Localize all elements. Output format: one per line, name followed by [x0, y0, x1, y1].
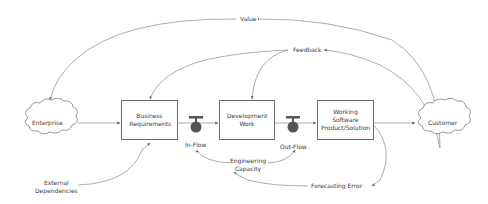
customer-label: Customer — [428, 119, 457, 127]
capacity-to-outflow-arrow — [268, 150, 295, 163]
inflow-valve-icon — [189, 116, 203, 133]
value-label: Value — [238, 15, 258, 23]
outflow-valve-icon — [286, 116, 300, 133]
feedback-arrow-to-business-requirements — [150, 50, 288, 99]
feedback-label: Feedback — [291, 46, 324, 54]
customer-cloud-icon — [418, 98, 470, 134]
system-dynamics-diagram: Business Requirements Development Work W… — [0, 0, 488, 204]
software-to-forecasting-error-arrow — [372, 125, 386, 186]
working-software-box: Working Software Product/Solution — [317, 100, 374, 140]
development-work-box: Development Work — [219, 100, 275, 140]
feedback-arrow-to-development-work — [252, 50, 288, 99]
enterprise-cloud-icon — [25, 98, 77, 134]
outflow-label: Out-Flow — [280, 143, 307, 151]
inflow-label: In-Flow — [185, 141, 206, 149]
development-work-label: Development Work — [227, 112, 267, 128]
business-requirements-label: Business Requirements — [130, 112, 170, 128]
forecasting-error-to-capacity-arrow — [234, 172, 308, 186]
engineering-capacity-label: Engineering Capacity — [230, 157, 266, 173]
business-requirements-box: Business Requirements — [121, 100, 178, 140]
forecasting-error-label: Forecasting Error — [311, 182, 362, 190]
enterprise-label: Enterprise — [32, 119, 63, 127]
external-dependencies-label: External Dependencies — [35, 179, 78, 195]
working-software-label: Working Software Product/Solution — [320, 108, 372, 132]
external-dependencies-arrow — [78, 143, 150, 185]
capacity-to-inflow-arrow — [196, 150, 230, 163]
